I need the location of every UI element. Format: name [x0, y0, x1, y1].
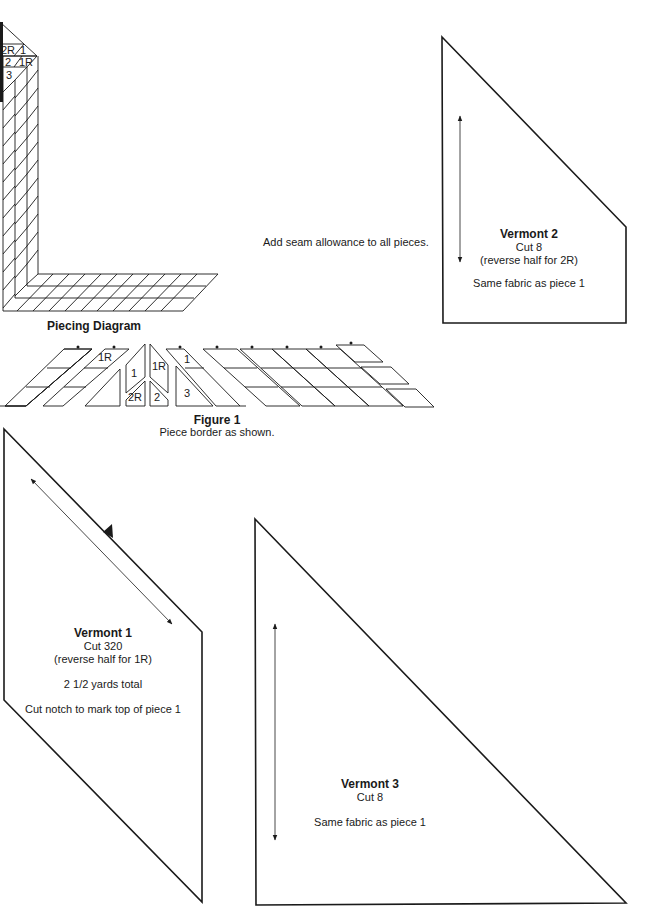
- vermont1-cut: Cut 320: [25, 640, 181, 653]
- seam-allowance-note: Add seam allowance to all pieces.: [263, 236, 429, 249]
- vermont3-title: Vermont 3: [314, 777, 426, 791]
- fig1-label-1R-b: 1R: [152, 361, 166, 372]
- vermont1-info: Vermont 1 Cut 320 (reverse half for 1R) …: [25, 626, 181, 716]
- vermont2-info: Vermont 2 Cut 8 (reverse half for 2R) Sa…: [473, 227, 585, 290]
- figure1-subtitle: Piece border as shown.: [160, 426, 275, 439]
- vermont1-yardage: 2 1/2 yards total: [25, 678, 181, 691]
- grain-arrow-icon: [31, 479, 172, 624]
- figure1-title: Figure 1: [194, 413, 241, 427]
- vermont2-cut: Cut 8: [473, 241, 585, 254]
- fig1-label-2R: 2R: [128, 392, 142, 403]
- vermont3-template: [255, 519, 626, 905]
- label-3: 3: [6, 70, 12, 81]
- vermont3-fabric: Same fabric as piece 1: [314, 816, 426, 829]
- vermont1-notch-note: Cut notch to mark top of piece 1: [25, 703, 181, 716]
- vermont1-note: (reverse half for 1R): [25, 653, 181, 666]
- fig1-label-1R: 1R: [98, 352, 112, 363]
- vermont2-fabric: Same fabric as piece 1: [473, 277, 585, 290]
- vermont2-note: (reverse half for 2R): [473, 254, 585, 267]
- label-2R: 2R: [1, 45, 15, 56]
- piecing-diagram-caption: Piecing Diagram: [47, 319, 141, 333]
- label-2: 2: [5, 57, 11, 68]
- vermont3-cut: Cut 8: [314, 791, 426, 804]
- label-1: 1: [20, 45, 26, 56]
- label-1R: 1R: [19, 57, 33, 68]
- vermont1-title: Vermont 1: [25, 626, 181, 640]
- fig1-label-2: 2: [154, 392, 160, 403]
- vermont3-info: Vermont 3 Cut 8 Same fabric as piece 1: [314, 777, 426, 829]
- vermont2-title: Vermont 2: [473, 227, 585, 241]
- fig1-label-3: 3: [184, 388, 190, 399]
- fig1-label-1c: 1: [184, 354, 190, 365]
- figure1-border-strip: [0, 342, 434, 408]
- fig1-label-1: 1: [131, 368, 137, 379]
